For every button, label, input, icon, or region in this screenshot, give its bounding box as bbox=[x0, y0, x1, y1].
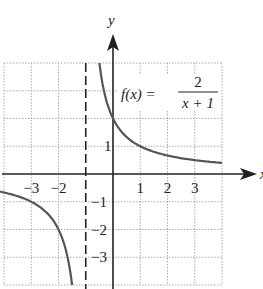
function-graph: xy−3−21231−1−2−3f(x) =2x + 1 bbox=[0, 0, 263, 289]
function-label-denominator: x + 1 bbox=[181, 95, 214, 111]
y-tick-label: 1 bbox=[104, 138, 112, 154]
x-tick-label: −3 bbox=[23, 180, 39, 196]
y-tick-label: −1 bbox=[91, 194, 107, 210]
x-axis-label: x bbox=[259, 166, 263, 182]
function-label-lhs: f(x) = bbox=[121, 86, 156, 103]
y-tick-label: −3 bbox=[91, 249, 107, 265]
y-axis-label: y bbox=[106, 12, 115, 28]
x-tick-label: 3 bbox=[191, 180, 199, 196]
x-tick-label: −2 bbox=[51, 180, 67, 196]
x-tick-label: 1 bbox=[137, 180, 145, 196]
curve-left-branch bbox=[0, 192, 72, 285]
x-tick-label: 2 bbox=[164, 180, 172, 196]
function-label-numerator: 2 bbox=[194, 74, 202, 90]
y-tick-label: −2 bbox=[91, 222, 107, 238]
